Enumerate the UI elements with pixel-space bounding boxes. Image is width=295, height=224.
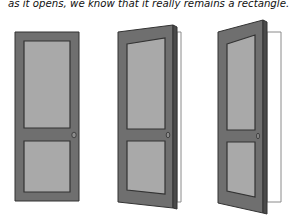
- door-panel-top: [24, 41, 70, 128]
- door-illustration: [0, 0, 295, 224]
- door-closed: [15, 32, 79, 201]
- door-knob-icon: [257, 133, 260, 139]
- door-knob-icon: [166, 132, 170, 138]
- door-frame-opening: [267, 32, 281, 202]
- door-more-open: [218, 20, 281, 214]
- door-edge: [173, 25, 177, 209]
- door-panel-top: [127, 38, 165, 129]
- door-frame-opening: [177, 32, 181, 202]
- door-panel-bottom: [24, 141, 70, 192]
- door-panel-top: [227, 35, 255, 130]
- door-panel-bottom: [127, 141, 165, 194]
- door-panel-bottom: [227, 142, 255, 197]
- door-edge: [263, 20, 267, 214]
- door-partly-open: [118, 25, 181, 209]
- door-knob-icon: [72, 132, 76, 138]
